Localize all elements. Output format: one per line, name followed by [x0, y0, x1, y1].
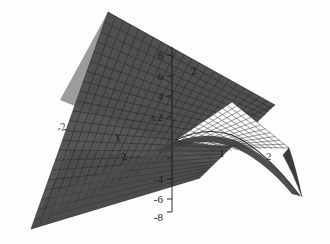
- z-label-minus-8: -8: [154, 211, 164, 223]
- z-label-minus-6: -6: [154, 193, 164, 205]
- z-label-4: 4: [158, 90, 164, 102]
- z-label-2: 2: [158, 111, 164, 123]
- surface-plot-figure: 8 6 4 2 -4 -6 -8 x -2 1 2 2 1 2: [0, 0, 330, 244]
- z-label-8: 8: [158, 49, 164, 61]
- x-axis-name-label: x: [151, 112, 156, 123]
- z-label-minus-4: -4: [154, 173, 164, 185]
- z-label-6: 6: [158, 70, 164, 82]
- y-label-front-1: 1: [219, 147, 225, 159]
- plot-canvas: 8 6 4 2 -4 -6 -8 x -2 1 2 2 1 2: [0, 0, 330, 244]
- y-label-front-2: 2: [266, 150, 272, 162]
